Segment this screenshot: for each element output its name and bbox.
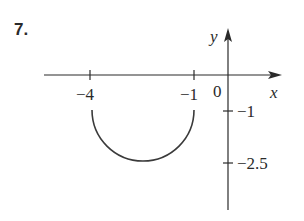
graph: −4 −1 0 x y −1 −2.5 [0, 0, 304, 221]
y-tick-label-neg1: −1 [237, 102, 255, 121]
x-tick-label-neg1: −1 [180, 85, 198, 104]
x-tick-label-neg4: −4 [76, 85, 95, 104]
semicircle-curve [92, 110, 194, 161]
y-axis-label: y [208, 27, 218, 46]
y-tick-label-neg2-5: −2.5 [237, 154, 268, 173]
origin-label: 0 [213, 82, 222, 101]
y-axis [224, 28, 232, 210]
x-axis-label: x [269, 83, 278, 102]
x-axis [44, 71, 282, 79]
